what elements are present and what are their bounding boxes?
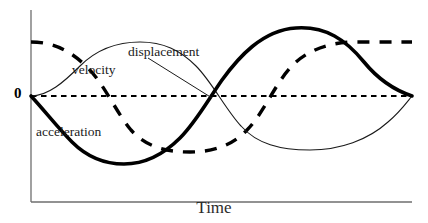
harmonic-motion-plot <box>0 0 428 223</box>
axes <box>31 10 412 202</box>
acceleration-series-label: acceleration <box>36 124 101 140</box>
displacement-series-label: displacement <box>128 44 199 60</box>
figure-canvas: 0 velocity displacement acceleration Tim… <box>0 0 428 223</box>
displacement-leader-line <box>148 58 212 98</box>
zero-axis-label: 0 <box>14 85 22 102</box>
x-axis-title: Time <box>0 198 428 218</box>
velocity-series-label: velocity <box>72 62 116 78</box>
